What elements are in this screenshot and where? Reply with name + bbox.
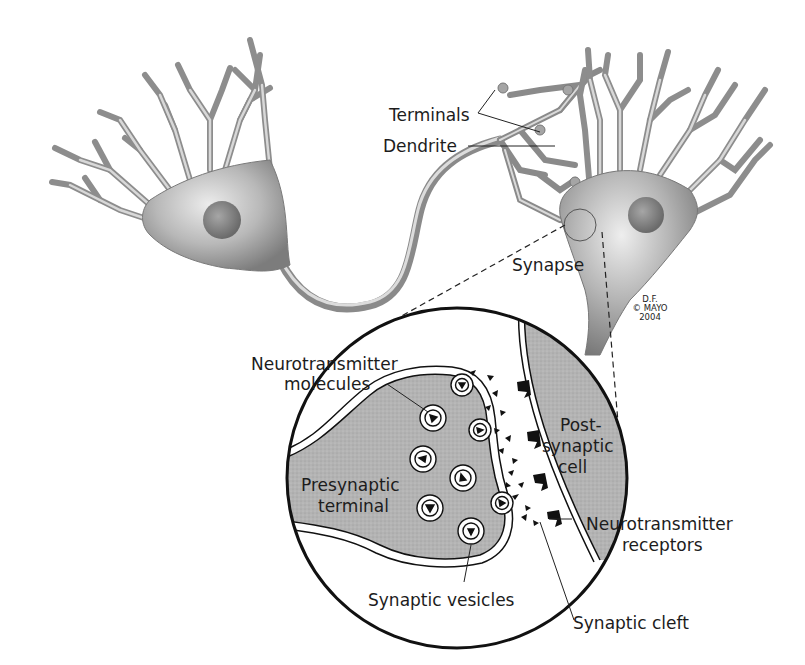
label-postsynaptic-cell-2: synaptic <box>542 436 614 456</box>
label-terminals: Terminals <box>388 105 470 125</box>
vesicle <box>458 518 484 544</box>
svg-text:2004: 2004 <box>639 312 661 322</box>
vesicle <box>450 465 476 491</box>
label-synaptic-cleft: Synaptic cleft <box>573 613 689 633</box>
label-neurotransmitter-receptors-1: Neurotransmitter <box>586 514 733 534</box>
label-neurotransmitter-molecules-1: Neurotransmitter <box>251 354 398 374</box>
label-postsynaptic-cell-1: Post- <box>560 415 602 435</box>
label-presynaptic-terminal-1: Presynaptic <box>301 475 400 495</box>
right-nucleus <box>628 197 664 233</box>
neuron-synapse-diagram: Terminals Dendrite Synapse D.F. © MAYO 2… <box>0 0 805 665</box>
label-synaptic-vesicles: Synaptic vesicles <box>368 590 515 610</box>
label-postsynaptic-cell-3: cell <box>558 457 587 477</box>
label-neurotransmitter-molecules-2: molecules <box>284 374 370 394</box>
vesicle <box>417 495 443 521</box>
axon <box>280 140 500 308</box>
label-presynaptic-terminal-2: terminal <box>318 496 389 516</box>
left-neuron <box>52 40 500 308</box>
label-neurotransmitter-receptors-2: receptors <box>622 535 703 555</box>
label-dendrite: Dendrite <box>383 136 457 156</box>
vesicle <box>410 446 436 472</box>
left-nucleus <box>203 201 241 239</box>
credit: D.F. © MAYO 2004 <box>632 294 667 322</box>
label-synapse: Synapse <box>512 255 584 275</box>
